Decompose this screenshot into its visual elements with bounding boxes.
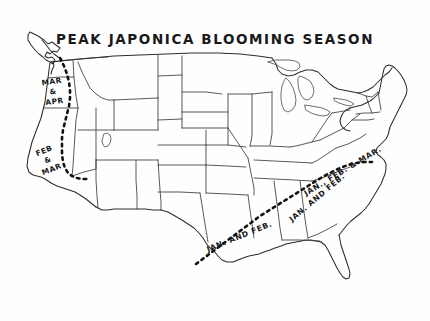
lake-huron bbox=[298, 76, 314, 100]
lake-ontario bbox=[334, 98, 354, 106]
border-mn-ia-north bbox=[182, 92, 222, 94]
border-nm-tx bbox=[158, 160, 161, 210]
border-vt-nh bbox=[366, 96, 372, 113]
lake-erie bbox=[305, 105, 330, 116]
border-id-mt bbox=[78, 62, 114, 100]
zone-label-california: FEB & MAR bbox=[33, 143, 63, 177]
great-lakes bbox=[268, 60, 354, 116]
border-or-nv-ca bbox=[72, 108, 78, 176]
border-il-in-ky bbox=[250, 146, 290, 147]
zone-label-text: JAN. AND FEB. bbox=[204, 219, 273, 254]
border-in-oh bbox=[270, 92, 272, 145]
border-ma-ct bbox=[352, 119, 374, 120]
texas-rio-grande bbox=[161, 210, 209, 247]
zone-label-text: JAN., FEB. & MAR. bbox=[302, 144, 383, 198]
border-oh-pa bbox=[312, 113, 332, 142]
zone-label-carolinas: JAN., FEB. & MAR. bbox=[302, 144, 383, 198]
zone-label-line-3: APR bbox=[45, 96, 64, 107]
japonica-blooming-season-map: PEAK JAPONICA BLOOMING SEASON bbox=[0, 0, 430, 321]
zone-label-line-2: & bbox=[49, 86, 57, 96]
map-canvas: PEAK JAPONICA BLOOMING SEASON bbox=[0, 0, 430, 321]
great-lakes-border bbox=[272, 58, 358, 93]
zone-label-line-1: MAR bbox=[41, 76, 62, 88]
border-ma-north bbox=[356, 112, 380, 114]
border-wi-il bbox=[228, 92, 272, 94]
border-ms-al bbox=[274, 181, 282, 240]
border-sd-ne bbox=[158, 119, 182, 120]
zone-divider-lines bbox=[60, 58, 372, 264]
border-pa-ny bbox=[332, 110, 350, 113]
border-az-nm bbox=[136, 160, 137, 209]
border-ky-tn bbox=[254, 160, 312, 163]
canada-border-west bbox=[51, 53, 272, 62]
lake-superior bbox=[268, 60, 300, 71]
border-mt-wy bbox=[114, 98, 158, 100]
border-nd-sd bbox=[158, 75, 182, 76]
border-mo-il bbox=[228, 128, 248, 158]
border-az-nm-west bbox=[96, 160, 98, 208]
great-salt-lake bbox=[102, 133, 111, 147]
border-tx-la bbox=[200, 193, 208, 242]
border-wv-pa bbox=[320, 128, 344, 140]
map-title: PEAK JAPONICA BLOOMING SEASON bbox=[56, 31, 374, 47]
border-ca-nv-south bbox=[72, 160, 96, 176]
zone-label-line-3: MAR bbox=[40, 161, 62, 177]
border-va-nc-east bbox=[336, 134, 366, 148]
mexico-border-west bbox=[96, 207, 161, 210]
border-ok-tx bbox=[158, 192, 200, 193]
border-ar-ms bbox=[248, 158, 254, 195]
border-ga-sc-coast bbox=[308, 224, 337, 238]
border-il-in bbox=[250, 94, 252, 146]
border-mo-ar bbox=[206, 165, 246, 167]
border-ar-la bbox=[206, 193, 248, 195]
border-wa-id bbox=[73, 60, 78, 108]
zone-label-gulf-coast: JAN. AND FEB. bbox=[204, 219, 273, 254]
border-tn-ms-al-ga bbox=[254, 178, 312, 181]
st-lawrence-border bbox=[358, 68, 392, 93]
state-borders bbox=[44, 55, 381, 242]
florida-peninsula bbox=[321, 235, 350, 279]
zone-label-pacific-northwest: MAR & APR bbox=[41, 76, 65, 108]
border-pa-md bbox=[344, 114, 360, 128]
maine-coastline bbox=[379, 65, 407, 107]
border-oh-wv bbox=[290, 140, 320, 147]
lake-michigan bbox=[281, 78, 296, 112]
border-nh-me bbox=[378, 92, 381, 110]
border-tn-nc-va bbox=[312, 148, 336, 163]
